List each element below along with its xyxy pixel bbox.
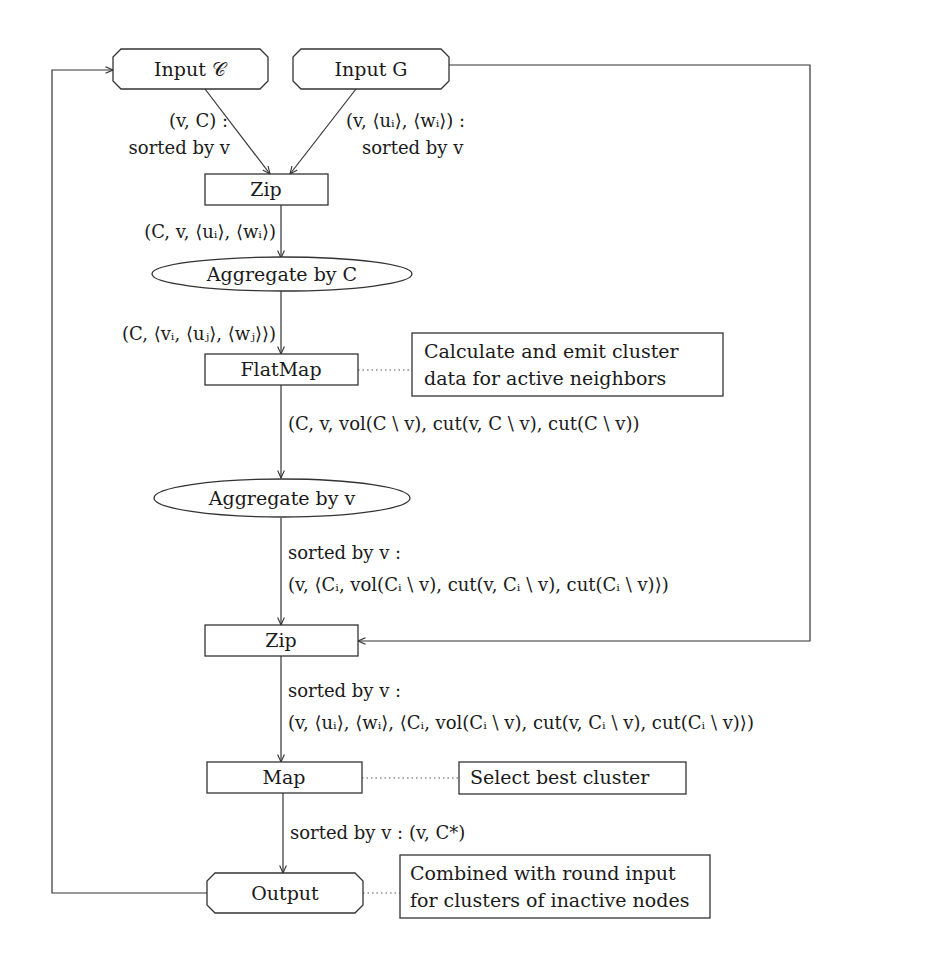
edge-label-zip-to-map-line-2: (v, ⟨uᵢ⟩, ⟨wᵢ⟩, ⟨Cᵢ, vol(Cᵢ \ v), cut(v,… <box>288 712 754 733</box>
node-flatmap: FlatMap <box>205 354 358 385</box>
edge-label-input-g-line-1: (v, ⟨uᵢ⟩, ⟨wᵢ⟩) : <box>346 110 465 131</box>
node-aggregate-by-v: Aggregate by v <box>154 479 410 517</box>
edge-label-zip-to-aggregate-c: (C, v, ⟨uᵢ⟩, ⟨wᵢ⟩) <box>144 221 276 242</box>
annotation-flatmap: Calculate and emit cluster data for acti… <box>412 333 723 396</box>
edge-output-to-input-c <box>52 70 207 893</box>
annotation-flatmap-line-1: Calculate and emit cluster <box>424 340 680 362</box>
dataflow-diagram: Input 𝒞 Input G Zip Aggregate by C FlatM… <box>0 0 944 969</box>
node-zip-2-label: Zip <box>265 629 296 651</box>
annotation-output-line-2: for clusters of inactive nodes <box>410 889 689 911</box>
edge-label-input-g-line-2: sorted by v <box>362 137 464 158</box>
node-aggregate-by-c: Aggregate by C <box>152 257 412 291</box>
edge-label-flatmap-to-aggregate-v: (C, v, vol(C \ v), cut(v, C \ v), cut(C … <box>288 413 640 434</box>
edge-label-map-to-output: sorted by v : (v, C*) <box>290 822 465 843</box>
node-output-label: Output <box>251 882 319 904</box>
edge-label-zip-to-map-line-1: sorted by v : <box>288 680 401 701</box>
node-zip-1-label: Zip <box>250 178 281 200</box>
node-flatmap-label: FlatMap <box>240 358 321 380</box>
edge-input-g-to-zip <box>290 89 356 174</box>
edge-label-aggregate-c-to-flatmap: (C, ⟨vᵢ, ⟨uⱼ⟩, ⟨wⱼ⟩⟩) <box>122 323 276 344</box>
edge-label-aggregate-v-line-2: (v, ⟨Cᵢ, vol(Cᵢ \ v), cut(v, Cᵢ \ v), cu… <box>288 574 669 595</box>
edge-label-aggregate-v-line-1: sorted by v : <box>288 542 401 563</box>
node-map-label: Map <box>263 766 306 788</box>
node-zip-1: Zip <box>205 174 328 205</box>
annotation-flatmap-line-2: data for active neighbors <box>424 367 666 389</box>
annotation-output: Combined with round input for clusters o… <box>400 855 710 918</box>
node-zip-2: Zip <box>205 625 358 656</box>
node-aggregate-by-v-label: Aggregate by v <box>208 487 356 509</box>
node-input-c: Input 𝒞 <box>113 49 268 89</box>
node-input-g-label: Input G <box>335 58 408 80</box>
edge-input-c-to-zip <box>205 89 270 174</box>
node-aggregate-by-c-label: Aggregate by C <box>206 263 357 285</box>
annotation-output-line-1: Combined with round input <box>410 862 676 884</box>
annotation-map-line-1: Select best cluster <box>470 766 650 788</box>
edge-label-input-c-line-1: (v, C) : <box>169 110 228 131</box>
edge-label-input-c-line-2: sorted by v <box>129 137 231 158</box>
node-input-c-label: Input 𝒞 <box>154 58 228 80</box>
node-input-g: Input G <box>293 49 449 89</box>
annotation-map: Select best cluster <box>459 762 686 794</box>
node-map: Map <box>207 762 362 793</box>
node-output: Output <box>207 873 363 913</box>
